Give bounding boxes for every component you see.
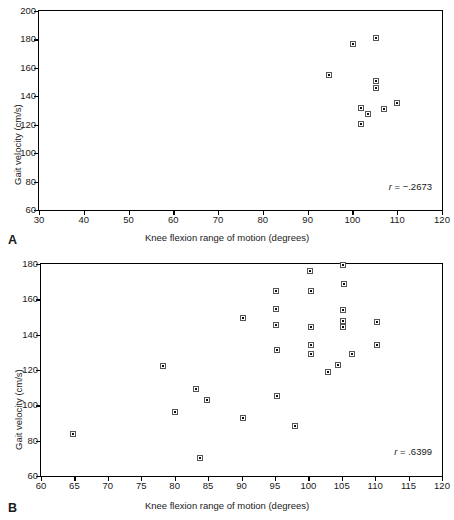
x-tick-label-b: 70 <box>103 481 114 491</box>
r-symbol-a: r <box>389 181 392 192</box>
correlation-annotation-a: r = −.2673 <box>389 181 432 192</box>
data-point <box>273 288 279 294</box>
data-point <box>274 347 280 353</box>
data-point <box>308 342 314 348</box>
data-point <box>326 72 332 78</box>
data-point <box>358 121 364 127</box>
data-point <box>240 315 246 321</box>
r-value-a: −.2673 <box>403 181 432 192</box>
x-tick-label-b: 105 <box>334 481 350 491</box>
y-tick-label-b: 160 <box>22 295 38 305</box>
data-point <box>350 41 356 47</box>
data-point <box>193 386 199 392</box>
data-point <box>373 35 379 41</box>
data-point <box>160 363 166 369</box>
x-tick-label-b: 80 <box>169 481 180 491</box>
y-tick-label-a: 80 <box>25 177 36 187</box>
data-point <box>273 322 279 328</box>
x-tick-label-a: 100 <box>345 215 361 225</box>
x-axis-title-a: Knee flexion range of motion (degrees) <box>0 232 454 243</box>
y-axis-title-b: Gait velocity (cm/s) <box>13 369 24 450</box>
x-tick-label-b: 110 <box>368 481 383 491</box>
y-tick-label-b: 80 <box>27 436 38 446</box>
data-point <box>197 455 203 461</box>
plot-area-a: r = −.2673 60801001201401601802003040506… <box>38 10 443 211</box>
x-tick-label-a: 120 <box>434 215 450 225</box>
data-point <box>204 397 210 403</box>
data-point <box>374 342 380 348</box>
data-point <box>325 369 331 375</box>
x-tick-label-a: 50 <box>123 215 134 225</box>
data-point <box>70 431 76 437</box>
data-point <box>340 307 346 313</box>
x-tick-label-a: 40 <box>78 215 89 225</box>
data-point <box>365 111 371 117</box>
x-tick-label-a: 80 <box>258 215 269 225</box>
x-tick-label-b: 60 <box>36 481 47 491</box>
data-point <box>341 281 347 287</box>
data-point <box>172 409 178 415</box>
data-point <box>308 288 314 294</box>
x-tick-label-a: 60 <box>168 215 179 225</box>
panel-a: r = −.2673 60801001201401601802003040506… <box>0 0 454 252</box>
r-equals-b: = <box>400 446 406 457</box>
data-point <box>308 324 314 330</box>
data-point <box>307 268 313 274</box>
panel-letter-b: B <box>8 501 17 515</box>
y-tick-label-b: 120 <box>22 365 38 375</box>
x-tick-label-b: 100 <box>300 481 316 491</box>
y-tick-label-b: 140 <box>22 330 38 340</box>
y-tick-label-a: 140 <box>20 92 36 102</box>
x-tick-label-b: 85 <box>203 481 214 491</box>
data-point <box>374 319 380 325</box>
y-axis-title-a: Gait velocity (cm/s) <box>12 104 23 185</box>
data-point <box>240 415 246 421</box>
data-point <box>381 106 387 112</box>
data-point <box>358 105 364 111</box>
y-tick-label-a: 160 <box>20 63 36 73</box>
y-tick-label-a: 180 <box>20 35 36 45</box>
y-tick-label-b: 100 <box>22 401 38 411</box>
data-point <box>273 306 279 312</box>
x-axis-title-b: Knee flexion range of motion (degrees) <box>0 500 454 511</box>
data-point <box>349 351 355 357</box>
data-point <box>274 393 280 399</box>
x-tick-label-b: 75 <box>136 481 147 491</box>
data-point <box>335 362 341 368</box>
x-tick-label-b: 115 <box>401 481 416 491</box>
y-tick-label-a: 200 <box>20 6 36 16</box>
x-tick-label-b: 95 <box>270 481 281 491</box>
data-point <box>373 78 379 84</box>
plot-area-b: r = .6399 608010012014016018060657075808… <box>40 263 443 477</box>
x-tick-label-a: 90 <box>302 215 313 225</box>
data-point <box>394 100 400 106</box>
data-point <box>373 85 379 91</box>
x-tick-label-a: 70 <box>213 215 224 225</box>
y-tick-label-b: 180 <box>22 259 38 269</box>
data-point <box>340 324 346 330</box>
data-point <box>292 423 298 429</box>
data-point <box>340 262 346 268</box>
x-tick-label-b: 65 <box>69 481 80 491</box>
r-symbol-b: r <box>394 446 397 457</box>
x-tick-label-a: 110 <box>390 215 405 225</box>
figure-container: r = −.2673 60801001201401601802003040506… <box>0 0 454 520</box>
r-equals-a: = <box>394 181 400 192</box>
x-tick-label-b: 120 <box>434 481 450 491</box>
x-tick-label-b: 90 <box>236 481 247 491</box>
data-point <box>308 351 314 357</box>
panel-b: r = .6399 608010012014016018060657075808… <box>0 252 454 520</box>
x-tick-label-a: 30 <box>34 215 45 225</box>
panel-letter-a: A <box>8 233 17 247</box>
correlation-annotation-b: r = .6399 <box>394 446 432 457</box>
r-value-b: .6399 <box>408 446 432 457</box>
